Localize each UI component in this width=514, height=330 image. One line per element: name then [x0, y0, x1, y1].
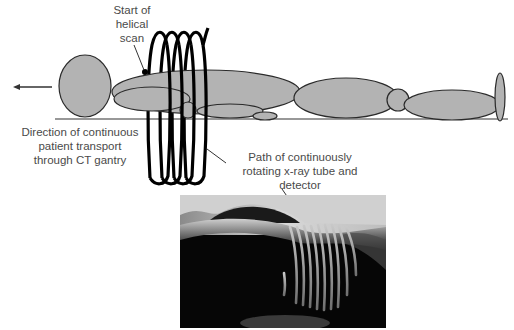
- label-path-of-xray-tube: Path of continuously rotating x-ray tube…: [225, 150, 375, 192]
- patient-photo: [180, 195, 386, 328]
- pointer-start: [134, 45, 144, 70]
- label-start-of-helical-scan: Start of helical scan: [96, 3, 168, 45]
- label-line: Start of: [96, 3, 168, 17]
- upper-arm: [114, 87, 190, 111]
- label-line: Path of continuously: [225, 150, 375, 164]
- patient-body: [59, 55, 505, 121]
- label-line: through CT gantry: [0, 153, 160, 167]
- direction-arrow-icon: [13, 84, 52, 90]
- head: [59, 55, 111, 117]
- diagram-canvas: Start of helical scan Direction of conti…: [0, 0, 514, 330]
- label-line: scan: [96, 31, 168, 45]
- label-line: Direction of continuous: [0, 125, 160, 139]
- helix-start-marker: [142, 69, 148, 75]
- photo-render: [180, 195, 386, 328]
- hand: [253, 112, 277, 120]
- pointer-path: [207, 149, 226, 163]
- label-line: helical: [96, 17, 168, 31]
- label-line: rotating x-ray tube and: [225, 164, 375, 178]
- foot: [495, 73, 505, 121]
- label-line: detector: [225, 178, 375, 192]
- label-line: patient transport: [0, 139, 160, 153]
- shin: [404, 90, 500, 120]
- thigh: [294, 78, 398, 118]
- label-direction-of-transport: Direction of continuous patient transpor…: [0, 125, 160, 167]
